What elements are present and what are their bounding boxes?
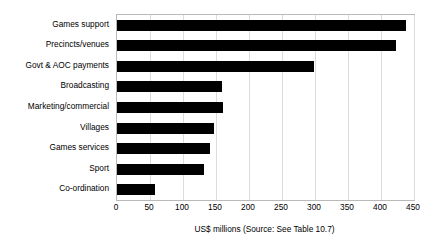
value-tick-label: 350 [340,202,354,212]
bar [117,184,155,195]
category-label: Villages [0,123,113,132]
bar [117,20,406,31]
chart-title [0,0,428,1]
value-tick-label: 300 [307,202,321,212]
value-tick-label: 0 [114,202,119,212]
bar [117,81,222,92]
value-tick-label: 100 [175,202,189,212]
value-axis: 050100150200250300350400450 [116,202,413,215]
category-label: Games services [0,143,113,152]
bar [117,123,214,134]
category-axis: Games supportPrecincts/venuesGovt & AOC … [0,14,113,199]
category-label: Govt & AOC payments [0,61,113,70]
category-label: Sport [0,164,113,173]
bar-chart-figure: Games supportPrecincts/venuesGovt & AOC … [0,0,428,247]
category-label: Marketing/commercial [0,102,113,111]
value-tick-label: 250 [274,202,288,212]
bar [117,102,223,113]
value-tick-label: 400 [373,202,387,212]
value-tick-label: 450 [406,202,420,212]
category-label: Precincts/venues [0,40,113,49]
gridline [414,15,415,200]
plot-area [116,14,415,201]
bar [117,40,396,51]
bar [117,61,314,72]
value-tick-label: 150 [208,202,222,212]
bar [117,164,204,175]
value-tick-label: 200 [241,202,255,212]
value-tick-label: 50 [144,202,153,212]
axis-caption-label: US$ millions (Source: See Table 10.7) [116,224,413,235]
bars-layer [117,15,414,200]
category-label: Co-ordination [0,184,113,193]
category-label: Games support [0,20,113,29]
bar [117,143,210,154]
category-label: Broadcasting [0,81,113,90]
